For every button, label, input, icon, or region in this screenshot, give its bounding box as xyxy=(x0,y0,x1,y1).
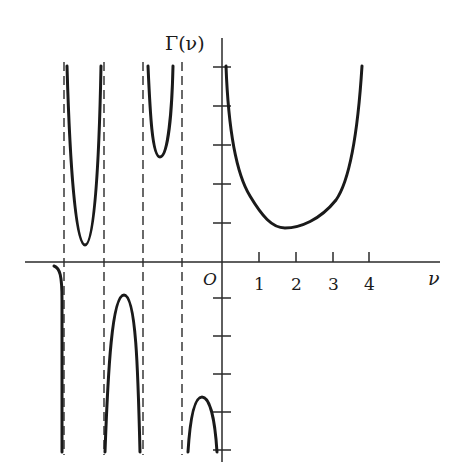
x-ticks xyxy=(259,252,369,262)
curve-branch-minus4-minus3 xyxy=(67,66,101,245)
x-axis-label: ν xyxy=(428,267,440,289)
x-tick-label-1: 1 xyxy=(254,274,265,294)
y-axis-label: Γ(ν) xyxy=(165,32,205,54)
x-tick-labels: 1 2 3 4 xyxy=(254,274,375,294)
curve-branch-minus2-minus1 xyxy=(148,66,173,157)
axes xyxy=(25,38,440,462)
x-tick-label-4: 4 xyxy=(364,274,375,294)
x-tick-label-3: 3 xyxy=(328,274,339,294)
x-tick-label-2: 2 xyxy=(291,274,302,294)
gamma-function-chart: Γ(ν) ν O 1 2 3 4 xyxy=(0,0,463,475)
curve-branch-minus3-minus2 xyxy=(105,295,140,452)
curve-branch-positive xyxy=(226,66,362,228)
curve-branch-minus5-minus4 xyxy=(54,266,62,452)
origin-label: O xyxy=(203,269,217,289)
gamma-curves xyxy=(54,66,362,452)
curve-branch-minus1-0 xyxy=(188,397,217,452)
asymptotes xyxy=(64,62,182,455)
